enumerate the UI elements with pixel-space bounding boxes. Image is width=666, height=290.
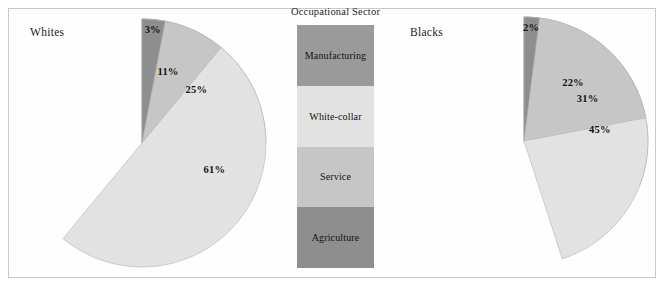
pie-slice-label: 3% bbox=[145, 24, 161, 35]
pie-slice-label: 22% bbox=[562, 76, 584, 87]
pie-panel-whites: Whites 25%61%11%3% bbox=[0, 0, 290, 290]
pie-slice-label: 25% bbox=[186, 83, 208, 94]
figure-canvas: Whites 25%61%11%3% Occupational Sector M… bbox=[0, 0, 666, 290]
legend-label-agriculture: Agriculture bbox=[312, 232, 360, 243]
legend-label-white-collar: White-collar bbox=[309, 111, 361, 122]
pie-chart-blacks: 31%45%22%2% bbox=[399, 16, 649, 266]
pie-panel-blacks: Blacks 31%45%22%2% bbox=[382, 0, 666, 290]
pie-slice-label: 2% bbox=[523, 22, 539, 33]
legend-occupational-sector: Occupational Sector Manufacturing White-… bbox=[297, 25, 374, 268]
pie-chart-whites: 25%61%11%3% bbox=[17, 18, 267, 268]
pie-slice-label: 11% bbox=[158, 65, 179, 76]
pie-slice-label: 45% bbox=[589, 123, 611, 134]
legend-title: Occupational Sector bbox=[291, 6, 380, 17]
legend-item-agriculture: Agriculture bbox=[297, 207, 374, 268]
pie-slice-label: 61% bbox=[204, 164, 226, 175]
legend-item-service: Service bbox=[297, 147, 374, 208]
pie-svg-whites bbox=[17, 18, 267, 268]
legend-item-manufacturing: Manufacturing bbox=[297, 25, 374, 86]
legend-item-white-collar: White-collar bbox=[297, 86, 374, 147]
legend-label-service: Service bbox=[320, 171, 351, 182]
pie-slice-label: 31% bbox=[577, 92, 599, 103]
legend-label-manufacturing: Manufacturing bbox=[305, 50, 366, 61]
pie-svg-blacks bbox=[399, 16, 649, 266]
